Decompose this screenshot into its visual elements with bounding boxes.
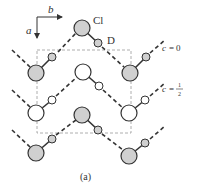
- svg-text:0: 0: [176, 43, 181, 53]
- chlorine-atom-icon: [74, 20, 90, 36]
- molecule-3: [122, 53, 150, 81]
- chlorine-atom-icon: [75, 64, 91, 80]
- chlorine-label: Cl: [93, 14, 103, 26]
- a-axis-label: a: [26, 24, 32, 36]
- molecule-6: [121, 96, 149, 121]
- crystal-structure-diagram: b a: [0, 0, 200, 192]
- chlorine-atom-icon: [74, 107, 90, 123]
- deuterium-atom-icon: [95, 82, 103, 90]
- deuterium-label: D: [107, 34, 115, 46]
- molecule-5: [28, 96, 56, 121]
- deuterium-atom-icon: [48, 53, 56, 61]
- deuterium-atom-icon: [94, 39, 102, 47]
- chlorine-atom-icon: [28, 65, 44, 81]
- chlorine-atom-icon: [28, 105, 44, 121]
- molecule-2: [28, 53, 56, 81]
- hydrogen-bonds: [12, 33, 165, 150]
- svg-text:=: =: [169, 43, 174, 53]
- figure-caption: (a): [80, 171, 91, 183]
- molecule-8: [28, 135, 56, 161]
- deuterium-atom-icon: [141, 96, 149, 104]
- layer-label-c0: c = 0: [162, 43, 181, 53]
- deuterium-atom-icon: [94, 126, 102, 134]
- layer-label-c-half: c = 1 2: [162, 82, 183, 97]
- axis-indicator: b a: [26, 3, 62, 38]
- svg-text:2: 2: [178, 91, 181, 97]
- svg-text:c: c: [162, 43, 166, 53]
- chlorine-atom-icon: [122, 65, 138, 81]
- molecule-4: [75, 64, 103, 90]
- deuterium-atom-icon: [48, 96, 56, 104]
- svg-text:1: 1: [178, 82, 181, 88]
- deuterium-atom-icon: [48, 135, 56, 143]
- svg-text:c: c: [162, 84, 166, 94]
- chlorine-atom-icon: [121, 148, 137, 164]
- svg-text:=: =: [169, 84, 174, 94]
- molecule-9: [121, 139, 149, 164]
- molecule-7: [74, 107, 102, 134]
- deuterium-atom-icon: [142, 53, 150, 61]
- chlorine-atom-icon: [28, 145, 44, 161]
- deuterium-atom-icon: [141, 139, 149, 147]
- b-axis-label: b: [48, 3, 54, 15]
- chlorine-atom-icon: [121, 105, 137, 121]
